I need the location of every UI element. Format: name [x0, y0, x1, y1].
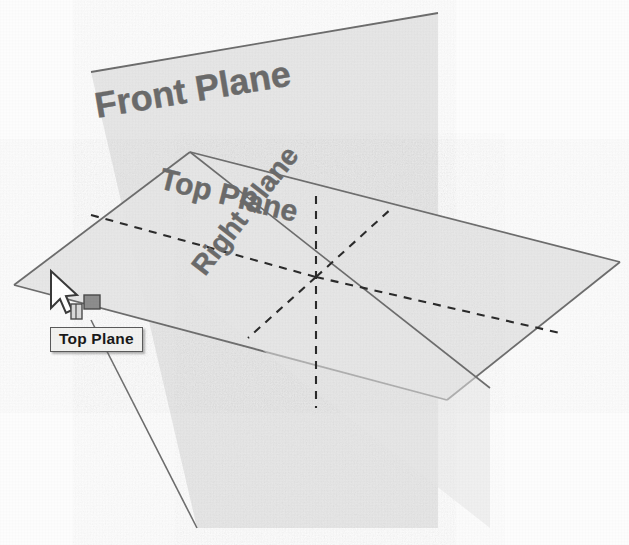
plane-tooltip: Top Plane [50, 327, 143, 352]
plane-tooltip-label: Top Plane [59, 330, 134, 347]
cad-viewport[interactable]: Front Plane Top Plane Right Plane [0, 0, 629, 545]
